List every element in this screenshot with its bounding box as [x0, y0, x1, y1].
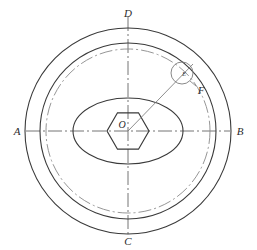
detail-label-f: F: [197, 84, 205, 96]
axis-label-a: A: [13, 125, 21, 137]
detail-label-e: E: [181, 71, 186, 77]
drawing-background: [0, 0, 257, 250]
technical-drawing-canvas: A B D C O E F: [0, 0, 257, 250]
axis-label-d: D: [123, 7, 132, 19]
center-label-o: O: [118, 119, 125, 130]
engineering-drawing: A B D C O E F: [0, 0, 257, 250]
axis-label-c: C: [124, 235, 132, 247]
axis-label-b: B: [237, 125, 244, 137]
